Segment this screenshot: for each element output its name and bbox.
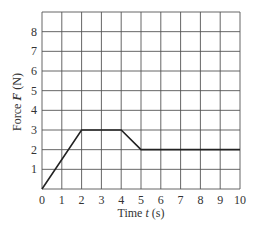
x-tick-label: 3	[98, 193, 104, 207]
y-tick-label: 4	[31, 103, 37, 117]
x-tick-label: 2	[79, 193, 85, 207]
y-axis-label: Force F (N)	[10, 73, 24, 131]
x-tick-label: 4	[118, 193, 124, 207]
y-tick-label: 2	[31, 143, 37, 157]
y-tick-label: 1	[31, 162, 37, 176]
force-time-chart: 012345678910 12345678 Time t (s) Force F…	[0, 0, 263, 231]
x-tick-label: 8	[197, 193, 203, 207]
y-axis-ticks: 12345678	[31, 25, 37, 177]
y-tick-label: 7	[31, 44, 37, 58]
x-tick-label: 9	[217, 193, 223, 207]
y-tick-label: 5	[31, 84, 37, 98]
y-tick-label: 3	[31, 123, 37, 137]
x-tick-label: 5	[138, 193, 144, 207]
x-tick-label: 0	[39, 193, 45, 207]
x-tick-label: 6	[158, 193, 164, 207]
y-tick-label: 6	[31, 64, 37, 78]
y-tick-label: 8	[31, 25, 37, 39]
x-axis-ticks: 012345678910	[39, 193, 246, 207]
x-tick-label: 10	[234, 193, 246, 207]
x-axis-label: Time t (s)	[118, 206, 165, 220]
x-tick-label: 1	[59, 193, 65, 207]
x-tick-label: 7	[178, 193, 184, 207]
chart-grid	[42, 12, 240, 189]
